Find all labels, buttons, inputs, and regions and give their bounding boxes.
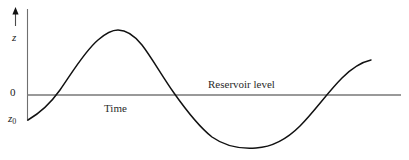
plot-canvas (0, 0, 409, 160)
y-axis-label: z (12, 32, 16, 43)
reservoir-level-label: Reservoir level (208, 79, 275, 90)
initial-level-label: z0 (8, 113, 16, 126)
water-level-curve (28, 30, 371, 148)
arrow-up-icon (12, 7, 18, 26)
initial-level-subscript: 0 (12, 117, 16, 126)
zero-tick-label: 0 (10, 87, 16, 98)
reservoir-oscillation-figure: z 0 z0 Time Reservoir level (0, 0, 409, 160)
x-axis-label: Time (104, 103, 127, 114)
